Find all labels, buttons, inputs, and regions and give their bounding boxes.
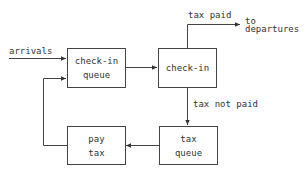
node-label: queue [83,68,110,82]
check-in-node: check-in [158,48,217,88]
tax-not-paid-label: tax not paid [193,99,258,110]
tax-queue-node: tax queue [159,126,218,165]
node-label: tax [180,132,196,146]
node-label: queue [175,146,202,160]
departures-label: departures [245,24,299,35]
node-label: check-in [166,61,209,75]
pay-tax-node: pay tax [67,126,126,165]
node-label: tax [88,146,104,160]
node-label: pay [88,132,104,146]
node-label: check-in [75,54,118,68]
check-in-queue-node: check-in queue [67,48,126,88]
arrivals-label: arrivals [9,46,52,57]
tax-paid-label: tax paid [188,10,231,21]
